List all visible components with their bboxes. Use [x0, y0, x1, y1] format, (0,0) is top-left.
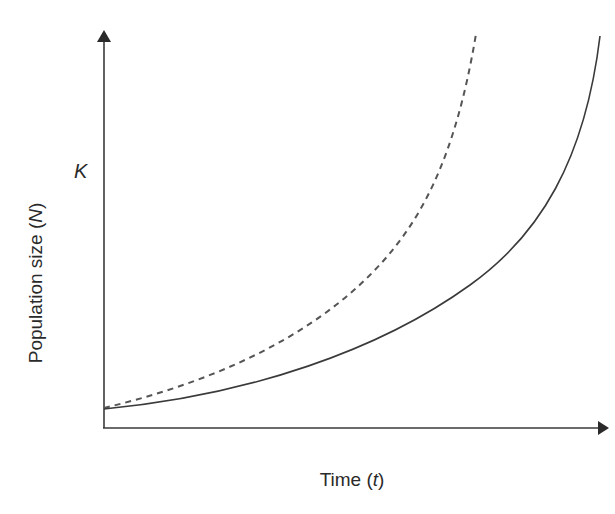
solid-growth-curve [104, 36, 600, 409]
y-axis-arrow-icon [97, 30, 111, 42]
growth-curve-diagram: K Population size (N) Time (t) [0, 0, 615, 514]
dashed-growth-curve [104, 34, 476, 408]
x-axis-arrow-icon [598, 421, 609, 435]
carrying-capacity-label: K [74, 160, 89, 182]
x-axis-label: Time (t) [320, 469, 385, 490]
y-axis-label: Population size (N) [25, 203, 46, 364]
